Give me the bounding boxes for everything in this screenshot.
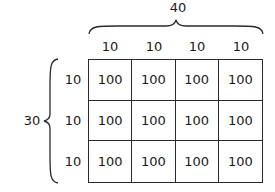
grid-cell: 100 <box>219 141 262 182</box>
grid-cell: 100 <box>89 101 132 142</box>
row-label: 10 <box>62 114 84 127</box>
total-width-label: 40 <box>163 1 193 14</box>
column-label: 10 <box>219 40 263 53</box>
grid-cell: 100 <box>89 141 132 182</box>
total-height-label: 30 <box>20 114 44 127</box>
grid-cell: 100 <box>89 60 132 101</box>
column-label: 10 <box>88 40 132 53</box>
grid-cell: 100 <box>176 60 219 101</box>
grid-cell: 100 <box>132 60 175 101</box>
left-brace <box>42 58 60 184</box>
grid-cell: 100 <box>176 141 219 182</box>
column-label: 10 <box>132 40 176 53</box>
row-label: 10 <box>62 73 84 86</box>
top-brace <box>88 18 264 36</box>
row-label: 10 <box>62 155 84 168</box>
grid-cell: 100 <box>176 101 219 142</box>
grid-cell: 100 <box>219 101 262 142</box>
column-label: 10 <box>175 40 219 53</box>
grid-cell: 100 <box>132 101 175 142</box>
grid-cell: 100 <box>132 141 175 182</box>
grid-cell: 100 <box>219 60 262 101</box>
area-grid: 100 100 100 100 100 100 100 100 100 100 … <box>88 59 263 183</box>
